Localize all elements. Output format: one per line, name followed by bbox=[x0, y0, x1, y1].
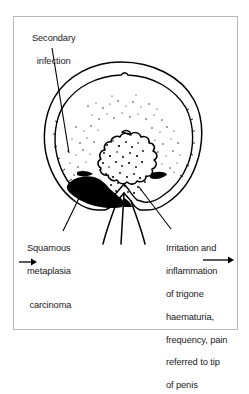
label-secondary-infection-line2: infection bbox=[37, 56, 71, 66]
black-trigone-lesion-satellite-left bbox=[77, 171, 93, 176]
label-secondary-infection-line1: Secondary bbox=[32, 33, 76, 43]
label-secondary-infection: Secondary infection bbox=[22, 22, 75, 79]
label-squamous-metaplasia: Squamous metaplasia carcinoma bbox=[17, 232, 71, 335]
label-squamous-line3: carcinoma bbox=[17, 300, 71, 311]
label-carcinoma-text: carcinoma bbox=[29, 300, 71, 310]
label-irritation-line5: frequency, pain bbox=[166, 335, 227, 345]
label-irritation-line4: haematuria, bbox=[166, 312, 214, 322]
label-irritation-line1: Irritation and bbox=[166, 243, 216, 253]
label-irritation-line3: of trigone bbox=[166, 289, 204, 299]
label-squamous-line1: Squamous bbox=[27, 243, 71, 253]
label-irritation-line2: inflammation bbox=[166, 266, 218, 276]
label-trigone-irritation: Irritation and inflammation of trigone h… bbox=[156, 232, 227, 394]
papillary-tumour-mass bbox=[98, 131, 157, 185]
label-squamous-line2: metaplasia bbox=[27, 266, 71, 276]
label-irritation-line7: of penis bbox=[166, 380, 198, 390]
label-irritation-line6: referred to tip bbox=[166, 357, 220, 367]
